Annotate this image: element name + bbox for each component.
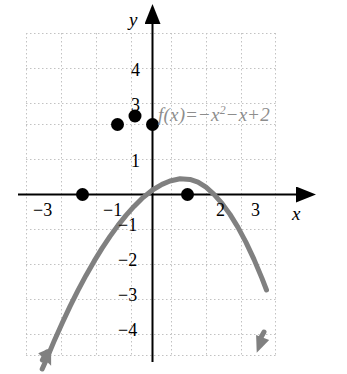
function-equation-label: f(x)=−x2−x+2	[158, 105, 270, 124]
x-tick-neg-3: −3	[33, 201, 52, 219]
x-tick-neg-1: −1	[103, 201, 122, 219]
curve-right-arrowhead	[250, 332, 269, 355]
y-tick-neg-3: −3	[118, 286, 137, 304]
y-tick-3: 3	[131, 96, 140, 114]
equation-term2-sign: −	[226, 104, 239, 125]
y-tick-4: 4	[131, 61, 140, 79]
y-tick-neg-4: −4	[118, 321, 137, 339]
equation-equals: =	[185, 104, 198, 125]
x-axis-label: x	[292, 204, 300, 223]
equation-term1-base: x	[211, 104, 220, 125]
equation-term1-exponent: 2	[220, 104, 226, 117]
equation-term3: 2	[260, 104, 270, 125]
x-tick-2: 2	[216, 201, 225, 219]
point-x-intercept-left	[76, 188, 89, 201]
equation-lhs: f(x)	[158, 104, 185, 125]
equation-term1-sign: −	[198, 104, 211, 125]
y-tick-neg-2: −2	[118, 251, 137, 269]
graph-figure: y x 4 3 1 −1 −2 −3 −4 −3 −1 2 3 f(x)=−x2…	[0, 0, 347, 374]
y-tick-1: 1	[131, 152, 140, 170]
y-axis-label: y	[129, 10, 137, 29]
point-x-intercept-right	[181, 188, 194, 201]
point-neg-one	[111, 118, 124, 131]
coordinate-plane	[0, 0, 347, 374]
parabola-curve	[42, 179, 266, 369]
x-tick-3: 3	[251, 201, 260, 219]
equation-term3-sign: +	[247, 104, 260, 125]
